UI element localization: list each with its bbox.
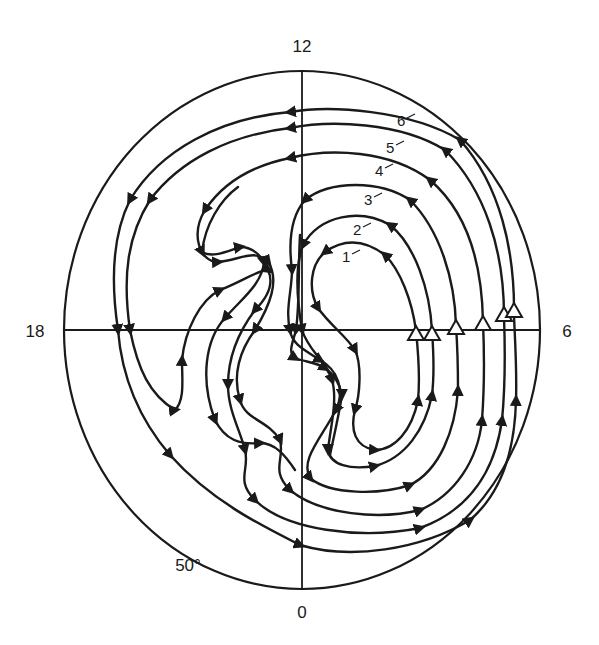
mlt-label-0: 0 xyxy=(297,603,306,622)
start-marker-1 xyxy=(408,326,424,340)
trajectory-5 xyxy=(127,124,505,533)
trajectory-label-2: 2 xyxy=(353,221,361,238)
trajectory-label-4: 4 xyxy=(375,162,383,179)
trajectory-label-5: 5 xyxy=(386,139,394,156)
trajectory-1 xyxy=(312,243,419,450)
start-marker-3 xyxy=(448,320,464,334)
start-marker-2 xyxy=(424,326,440,340)
trajectory-label-3: 3 xyxy=(364,191,372,208)
trajectory-label-1: 1 xyxy=(342,248,350,265)
mlt-label-6: 6 xyxy=(562,322,571,341)
trajectory-label-6: 6 xyxy=(397,112,405,129)
mlt-label-12: 12 xyxy=(293,37,312,56)
polar-trajectory-diagram: 12 0 18 6 50° 1 2 3 4 5 6 xyxy=(0,0,599,645)
latitude-label-50: 50° xyxy=(175,556,201,575)
trajectory-left-lobe xyxy=(202,187,295,470)
start-marker-6 xyxy=(506,303,522,317)
start-marker-4 xyxy=(475,316,491,330)
mlt-label-18: 18 xyxy=(26,322,45,341)
trajectory-2 xyxy=(298,216,434,467)
